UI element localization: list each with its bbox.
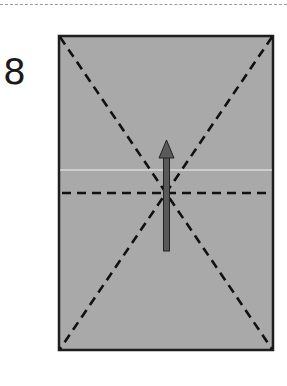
fold-diagram (0, 0, 287, 386)
